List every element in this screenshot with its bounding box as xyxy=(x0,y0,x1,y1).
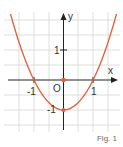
parabola-diagram: y x O -1 1 1 -1 xyxy=(0,0,123,147)
origin-point xyxy=(61,78,65,82)
tick-label-x-neg1: -1 xyxy=(27,86,36,97)
tick-label-y-neg1: -1 xyxy=(47,104,56,115)
tick-label-x-1: 1 xyxy=(91,86,97,97)
tick-label-y-1: 1 xyxy=(54,45,60,56)
grid xyxy=(4,12,120,132)
figure-caption: Fig. 1 xyxy=(97,134,117,143)
x-axis-arrow-icon xyxy=(111,77,118,83)
axes xyxy=(8,13,118,130)
y-axis-arrow-icon xyxy=(61,13,67,20)
y-axis-label: y xyxy=(68,11,73,22)
origin-label: O xyxy=(53,83,61,94)
vertex-point xyxy=(62,108,66,112)
x-axis-label: x xyxy=(108,65,113,76)
